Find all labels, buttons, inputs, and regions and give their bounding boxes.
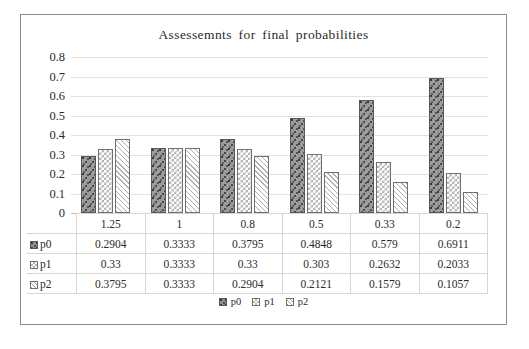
table-cell: 0.1057 <box>419 274 488 294</box>
table-cell: 0.2904 <box>77 234 146 254</box>
bar-p1[interactable] <box>237 149 252 213</box>
bar-p0[interactable] <box>290 118 305 213</box>
y-axis-tick-label: 0.2 <box>49 167 65 182</box>
table-row: p20.37950.33330.29040.21210.15790.1057 <box>27 274 488 294</box>
table-column-header: 1.25 <box>77 214 146 234</box>
chart-title: Assessemnts for final probabilities <box>21 27 506 43</box>
table-cell: 0.33 <box>214 254 283 274</box>
bar-group <box>141 57 211 213</box>
y-axis-tick-label: 0.8 <box>49 50 65 65</box>
y-axis-tick-label: 0.1 <box>49 186 65 201</box>
bar-p0[interactable] <box>220 139 235 213</box>
bar-group <box>210 57 280 213</box>
table-cell: 0.4848 <box>282 234 351 254</box>
table-cell: 0.3333 <box>145 274 214 294</box>
table-row: p10.330.33330.330.3030.26320.2033 <box>27 254 488 274</box>
bar-group <box>349 57 419 213</box>
bar-p1[interactable] <box>446 173 461 213</box>
bar-p2[interactable] <box>185 148 200 213</box>
table-row-header-p1: p1 <box>27 254 77 274</box>
table-cell: 0.2033 <box>419 254 488 274</box>
table-cell: 0.1579 <box>351 274 420 294</box>
legend-swatch-icon <box>219 298 227 306</box>
legend-label: p1 <box>264 296 275 307</box>
bar-p2[interactable] <box>115 139 130 213</box>
bar-p0[interactable] <box>429 78 444 213</box>
plot-area: 0.80.70.60.50.40.30.20.10 <box>71 57 488 213</box>
bar-p2[interactable] <box>324 172 339 213</box>
bar-p0[interactable] <box>359 100 374 213</box>
legend-label: p2 <box>298 296 309 307</box>
y-axis-tick-label: 0.7 <box>49 69 65 84</box>
table-cell: 0.2904 <box>214 274 283 294</box>
table-row: p00.29040.33330.37950.48480.5790.6911 <box>27 234 488 254</box>
legend-item-p0[interactable]: p0 <box>219 296 242 307</box>
data-table: 1.2510.80.50.330.2p00.29040.33330.37950.… <box>27 213 488 294</box>
bar-p2[interactable] <box>393 182 408 213</box>
chart-frame: Assessemnts for final probabilities 0.80… <box>20 14 507 325</box>
table-cell: 0.33 <box>77 254 146 274</box>
bar-p0[interactable] <box>151 148 166 213</box>
legend-label: p0 <box>231 296 242 307</box>
legend-item-p2[interactable]: p2 <box>286 296 309 307</box>
table-row-label: p1 <box>40 258 52 270</box>
legend-swatch-icon <box>252 298 260 306</box>
table-cell: 0.6911 <box>419 234 488 254</box>
series-swatch-icon <box>30 261 38 269</box>
legend-item-p1[interactable]: p1 <box>252 296 275 307</box>
table-corner-blank <box>27 214 77 234</box>
table-cell: 0.3795 <box>214 234 283 254</box>
table-column-header: 0.8 <box>214 214 283 234</box>
series-swatch-icon <box>30 281 38 289</box>
bar-p2[interactable] <box>463 192 478 213</box>
table-cell: 0.579 <box>351 234 420 254</box>
bar-group <box>280 57 350 213</box>
y-axis-tick-label: 0.6 <box>49 89 65 104</box>
data-table-body: 1.2510.80.50.330.2p00.29040.33330.37950.… <box>27 214 488 294</box>
table-cell: 0.3333 <box>145 254 214 274</box>
table-cell: 0.2121 <box>282 274 351 294</box>
table-row-label: p0 <box>40 238 52 250</box>
bar-p1[interactable] <box>98 149 113 213</box>
bar-p1[interactable] <box>307 154 322 213</box>
y-axis-tick-label: 0.3 <box>49 147 65 162</box>
table-header-row: 1.2510.80.50.330.2 <box>27 214 488 234</box>
table-row-header-p0: p0 <box>27 234 77 254</box>
bar-group <box>71 57 141 213</box>
table-cell: 0.2632 <box>351 254 420 274</box>
legend-swatch-icon <box>286 298 294 306</box>
bar-group <box>419 57 489 213</box>
table-cell: 0.303 <box>282 254 351 274</box>
bar-p1[interactable] <box>168 148 183 213</box>
table-column-header: 0.33 <box>351 214 420 234</box>
bar-p2[interactable] <box>254 156 269 213</box>
y-axis-tick-label: 0.5 <box>49 108 65 123</box>
table-column-header: 1 <box>145 214 214 234</box>
table-row-header-p2: p2 <box>27 274 77 294</box>
bar-p0[interactable] <box>81 156 96 213</box>
bar-p1[interactable] <box>376 162 391 213</box>
chart-legend: p0p1p2 <box>21 296 506 307</box>
series-swatch-icon <box>30 241 38 249</box>
table-row-label: p2 <box>40 278 52 290</box>
table-cell: 0.3795 <box>77 274 146 294</box>
y-axis-tick-label: 0.4 <box>49 128 65 143</box>
table-column-header: 0.5 <box>282 214 351 234</box>
bars-layer <box>71 57 488 213</box>
table-cell: 0.3333 <box>145 234 214 254</box>
table-column-header: 0.2 <box>419 214 488 234</box>
